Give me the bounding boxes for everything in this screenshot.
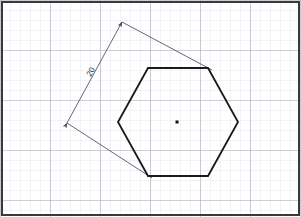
technical-drawing-svg: 20 xyxy=(0,0,301,217)
graph-paper-grid xyxy=(0,0,301,217)
drawing-canvas: 20 xyxy=(0,0,301,217)
hexagon-center-dot xyxy=(176,121,179,124)
